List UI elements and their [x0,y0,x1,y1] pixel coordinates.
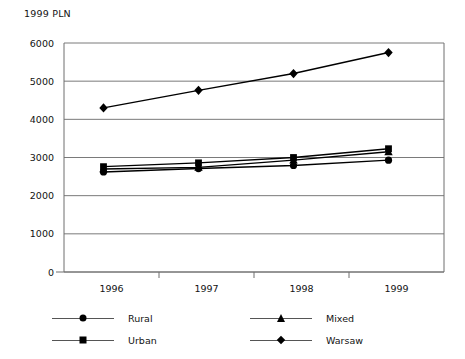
x-tick-labels-group: 1996199719981999 [99,283,408,294]
legend-label-mixed: Mixed [326,313,354,324]
x-tick-marks-group [159,272,349,278]
y-tick-labels-group: 0100020003000400050006000 [30,38,54,278]
diamond-marker-icon [277,336,285,344]
legend-item-mixed: Mixed [250,310,354,326]
svg-text:6000: 6000 [30,38,54,49]
legend-swatch-rural [52,311,114,325]
svg-text:1996: 1996 [99,283,123,294]
svg-text:0: 0 [48,267,54,278]
svg-text:4000: 4000 [30,114,54,125]
svg-text:1000: 1000 [30,228,54,239]
svg-text:1998: 1998 [289,283,313,294]
legend-swatch-warsaw [250,333,312,347]
square-marker-icon [80,337,87,344]
legend-item-rural: Rural [52,310,153,326]
svg-text:3000: 3000 [30,152,54,163]
circle-marker-icon [80,315,87,322]
series-lines-group [104,53,389,172]
series-markers-group [99,48,392,176]
triangle-marker-icon [277,314,285,322]
legend-label-warsaw: Warsaw [326,335,363,346]
legend-swatch-urban [52,333,114,347]
legend-swatch-mixed [250,311,312,325]
chart-legend: Rural Mixed Urban Warsaw [52,310,442,356]
legend-item-urban: Urban [52,332,157,348]
chart-container: 1999 PLN 0100020003000400050006000 19961… [0,0,465,359]
svg-text:5000: 5000 [30,76,54,87]
legend-item-warsaw: Warsaw [250,332,363,348]
legend-label-rural: Rural [128,313,153,324]
legend-label-urban: Urban [128,335,157,346]
line-chart-plot: 0100020003000400050006000 19961997199819… [0,0,465,300]
svg-text:1997: 1997 [194,283,218,294]
svg-text:1999: 1999 [384,283,408,294]
svg-text:2000: 2000 [30,190,54,201]
